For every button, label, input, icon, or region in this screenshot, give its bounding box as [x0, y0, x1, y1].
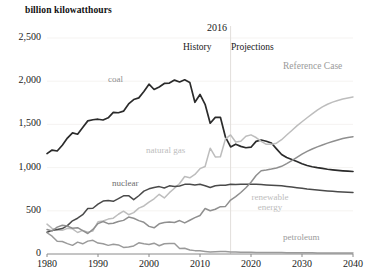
- x-tick-label: 2010: [180, 258, 220, 269]
- x-tick-label: 2030: [282, 258, 322, 269]
- series-label-renewable-line2: energy: [258, 202, 282, 212]
- y-tick-label: 500: [0, 204, 41, 215]
- x-tick-label: 1980: [27, 258, 67, 269]
- axis-group: [47, 254, 353, 257]
- projections-label: Projections: [231, 42, 274, 52]
- x-tick-label: 2000: [129, 258, 169, 269]
- series-label-renewable-energy: renewable energy: [239, 192, 301, 212]
- series-line-nuclear: [47, 184, 353, 232]
- y-tick-label: 1,500: [0, 117, 41, 128]
- divider-year-label: 2016: [207, 22, 227, 33]
- y-tick-label: 1,000: [0, 161, 41, 172]
- y-tick-label: 2,000: [0, 74, 41, 85]
- x-tick-label: 2020: [231, 258, 271, 269]
- y-axis-title: billion kilowatthours: [25, 5, 112, 15]
- x-tick-label: 2040: [333, 258, 373, 269]
- series-label-nuclear: nuclear: [112, 178, 138, 188]
- series-label-renewable-line1: renewable: [252, 192, 289, 202]
- series-lines-group: [47, 80, 353, 253]
- series-label-coal: coal: [108, 74, 123, 84]
- x-tick-label: 1990: [78, 258, 118, 269]
- y-tick-label: 2,500: [0, 31, 41, 42]
- y-tick-label: 0: [0, 247, 41, 258]
- series-label-natural-gas: natural gas: [146, 145, 185, 155]
- electricity-generation-chart: billion kilowatthours 2016 History Proje…: [0, 0, 373, 279]
- scenario-label: Reference Case: [283, 61, 342, 71]
- series-line-renewable-energy: [47, 137, 353, 234]
- series-line-coal: [47, 80, 353, 172]
- series-label-petroleum: petroleum: [283, 232, 320, 242]
- history-label: History: [183, 42, 212, 52]
